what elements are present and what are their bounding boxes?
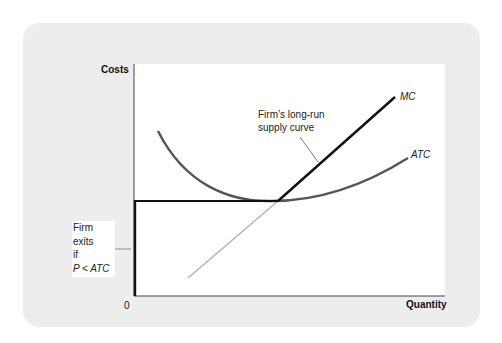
cost-curves-diagram bbox=[0, 0, 502, 343]
x-axis-label: Quantity bbox=[406, 298, 447, 311]
exit-line-1: Firm bbox=[73, 221, 115, 235]
supply-label-leader bbox=[300, 137, 318, 162]
exit-condition-label: Firm exits if P < ATC bbox=[72, 221, 115, 277]
atc-label: ATC bbox=[411, 148, 430, 161]
supply-label-line1: Firm’s long-run bbox=[258, 108, 325, 121]
mc-label: MC bbox=[400, 90, 416, 103]
supply-label-line2: supply curve bbox=[258, 121, 325, 134]
exit-line-2: exits bbox=[73, 235, 115, 249]
origin-label: 0 bbox=[124, 299, 130, 312]
exit-line-4: P < ATC bbox=[73, 262, 115, 276]
exit-line-3: if bbox=[73, 248, 115, 262]
mc-lower-segment bbox=[188, 201, 278, 278]
y-axis-label: Costs bbox=[101, 63, 129, 76]
atc-curve bbox=[158, 131, 408, 201]
supply-curve-label: Firm’s long-run supply curve bbox=[258, 108, 325, 134]
